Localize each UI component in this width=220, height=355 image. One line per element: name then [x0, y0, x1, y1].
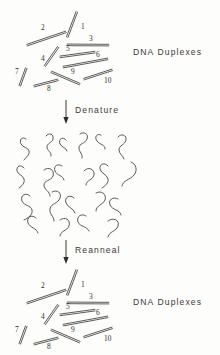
- duplex-number-top-6: 6: [96, 50, 100, 59]
- duplex-number-bottom-5: 5: [66, 302, 70, 311]
- duplex-number-bottom-7: 7: [15, 325, 19, 334]
- duplex-number-bottom-3: 3: [89, 292, 93, 301]
- duplex-number-top-1: 1: [81, 22, 85, 31]
- duplex-number-top-3: 3: [89, 34, 93, 43]
- duplex-number-bottom-4: 4: [41, 312, 45, 321]
- duplex-number-top-9: 9: [71, 67, 75, 76]
- duplex-number-top-4: 4: [41, 54, 45, 63]
- dna-reannealing-diagram: 12345678910 12345678910 DNA Duplexes DNA…: [0, 0, 220, 355]
- duplex-number-bottom-1: 1: [81, 280, 85, 289]
- duplex-number-bottom-9: 9: [71, 325, 75, 334]
- duplex-number-top-5: 5: [66, 44, 70, 53]
- duplex-number-bottom-2: 2: [41, 281, 45, 290]
- duplex-number-top-7: 7: [15, 67, 19, 76]
- duplex-number-top-8: 8: [47, 84, 51, 93]
- duplex-number-top-2: 2: [41, 23, 45, 32]
- duplex-number-bottom-10: 10: [104, 334, 112, 343]
- label-dna-duplexes-top: DNA Duplexes: [133, 47, 202, 57]
- label-denature: Denature: [75, 105, 119, 115]
- label-dna-duplexes-bottom: DNA Duplexes: [133, 297, 202, 307]
- duplex-number-top-10: 10: [104, 76, 112, 85]
- label-reanneal: Reanneal: [75, 245, 121, 255]
- duplex-number-bottom-8: 8: [47, 342, 51, 351]
- duplex-number-bottom-6: 6: [96, 308, 100, 317]
